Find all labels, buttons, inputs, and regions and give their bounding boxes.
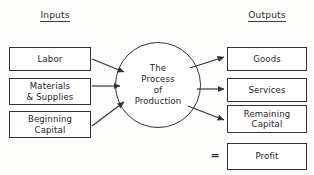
- arrow-process-to-remaining-capital: [188, 106, 224, 120]
- arrow-labor-to-process: [92, 59, 124, 72]
- arrow-beginning-capital-to-process: [92, 102, 124, 126]
- process-flow-diagram: Inputs Outputs Labor Materials & Supplie…: [0, 0, 314, 175]
- arrow-process-to-goods: [190, 57, 224, 68]
- arrow-layer: [0, 0, 314, 175]
